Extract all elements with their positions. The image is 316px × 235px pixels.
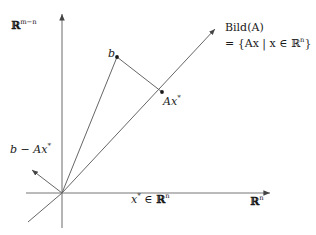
image-set-label: = {Ax | x ∈ ℝn} (225, 38, 311, 50)
residual-vector-arrow (32, 170, 62, 193)
point-axstar-dot (160, 90, 164, 94)
domain-point-member: ∈ (141, 193, 156, 206)
least-squares-projection-figure: ℝm−n x* ∈ ℝn ℝn b Ax* b − Ax* Bild(A) = … (0, 0, 316, 235)
point-b-dot (115, 55, 119, 59)
vertical-axis-label-space: ℝ (11, 19, 20, 32)
image-set-close: } (304, 37, 311, 50)
vertical-axis-label: ℝm−n (11, 20, 37, 32)
domain-space-symbol: ℝ (156, 193, 165, 206)
projection-label: Ax* (163, 96, 181, 108)
residual-segment (117, 57, 162, 92)
domain-space-exponent: n (165, 192, 169, 200)
residual-star: * (47, 141, 51, 150)
horizontal-axis-label-space: ℝ (250, 195, 259, 208)
vector-b-symbol: b (108, 47, 115, 60)
residual-label: b − Ax* (10, 144, 51, 156)
image-title-text: Bild(A) (225, 21, 264, 34)
image-set-text: = {Ax | x ∈ ℝ (225, 37, 300, 50)
image-title-label: Bild(A) (225, 22, 264, 34)
horizontal-axis-label-exponent: n (259, 194, 263, 202)
vertical-axis-label-exponent: m−n (20, 18, 37, 26)
image-line-lower (28, 193, 62, 222)
image-ray (62, 29, 215, 193)
domain-point-label: x* ∈ ℝn (131, 194, 170, 206)
horizontal-axis-label: ℝn (250, 196, 264, 208)
projection-symbol: Ax (163, 95, 177, 108)
residual-symbol: b − Ax (10, 143, 47, 156)
vector-b (62, 57, 117, 193)
vector-b-label: b (108, 48, 115, 60)
projection-star: * (177, 93, 181, 102)
